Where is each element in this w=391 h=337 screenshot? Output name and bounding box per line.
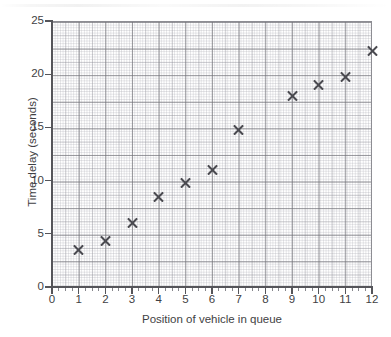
x-axis-tick-label: 7 <box>235 294 241 306</box>
y-axis-tick <box>45 233 52 234</box>
x-axis-tick-label: 12 <box>366 294 379 306</box>
y-axis-tick <box>45 180 52 181</box>
x-axis-minor-tick <box>145 288 146 291</box>
x-axis-minor-tick <box>172 288 173 291</box>
plot-area <box>52 21 372 287</box>
x-axis-minor-tick <box>278 288 279 291</box>
scatter-chart-figure: 0510152025 0123456789101112 Position of … <box>0 0 391 337</box>
x-axis-tick-label: 9 <box>289 294 295 306</box>
x-axis-tick-label: 3 <box>129 294 135 306</box>
x-axis-minor-tick <box>305 288 306 291</box>
x-axis-tick-label: 4 <box>155 294 161 306</box>
x-axis-minor-tick <box>118 288 119 291</box>
x-axis-minor-tick <box>365 288 366 291</box>
x-axis-tick-label: 10 <box>312 294 325 306</box>
x-axis-minor-tick <box>225 288 226 291</box>
x-axis-minor-tick <box>352 288 353 291</box>
x-axis-tick-label: 6 <box>209 294 215 306</box>
x-axis-minor-tick <box>58 288 59 291</box>
x-axis-tick-label: 0 <box>49 294 55 306</box>
scan-artifact <box>0 4 391 7</box>
x-axis-minor-tick <box>65 288 66 291</box>
x-axis-minor-tick <box>232 288 233 291</box>
x-axis-tick-label: 2 <box>102 294 108 306</box>
x-axis-minor-tick <box>72 288 73 291</box>
x-axis-minor-tick <box>138 288 139 291</box>
x-axis-minor-tick <box>85 288 86 291</box>
x-axis-minor-tick <box>285 288 286 291</box>
x-axis-title: Position of vehicle in queue <box>52 313 372 325</box>
x-axis-minor-tick <box>152 288 153 291</box>
x-axis-tick-label: 8 <box>262 294 268 306</box>
x-axis-minor-tick <box>252 288 253 291</box>
y-axis-title: Time delay (seconds) <box>26 57 38 247</box>
y-axis-tick <box>45 127 52 128</box>
x-axis-minor-tick <box>245 288 246 291</box>
x-axis-minor-tick <box>112 288 113 291</box>
x-axis-minor-tick <box>165 288 166 291</box>
y-axis-tick-label: 5 <box>38 228 44 240</box>
x-axis-minor-tick <box>312 288 313 291</box>
x-axis-minor-tick <box>205 288 206 291</box>
x-axis-minor-tick <box>272 288 273 291</box>
x-axis-tick-label: 5 <box>182 294 188 306</box>
y-axis-tick <box>45 20 52 21</box>
y-axis-tick-label: 0 <box>38 281 44 293</box>
x-axis-minor-tick <box>125 288 126 291</box>
x-axis-minor-tick <box>258 288 259 291</box>
x-axis-minor-tick <box>98 288 99 291</box>
x-axis-minor-tick <box>358 288 359 291</box>
x-axis-minor-tick <box>198 288 199 291</box>
x-axis-minor-tick <box>332 288 333 291</box>
y-axis-tick-label: 25 <box>31 15 44 27</box>
x-axis-minor-tick <box>92 288 93 291</box>
x-axis-minor-tick <box>325 288 326 291</box>
x-axis-minor-tick <box>192 288 193 291</box>
x-axis-tick-label: 1 <box>75 294 81 306</box>
x-axis-minor-tick <box>298 288 299 291</box>
x-axis-minor-tick <box>218 288 219 291</box>
x-axis-minor-tick <box>178 288 179 291</box>
y-axis-tick <box>45 74 52 75</box>
x-axis-minor-tick <box>338 288 339 291</box>
x-axis-tick-label: 11 <box>339 294 351 306</box>
y-axis-line <box>51 20 53 288</box>
